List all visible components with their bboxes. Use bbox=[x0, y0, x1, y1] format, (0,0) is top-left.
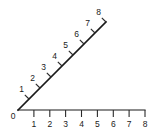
diagonal-tick-3 bbox=[47, 73, 51, 77]
origin-label: 0 bbox=[11, 111, 16, 121]
horizontal-label-6: 6 bbox=[111, 119, 116, 129]
horizontal-label-7: 7 bbox=[127, 119, 132, 129]
horizontal-label-1: 1 bbox=[32, 119, 37, 129]
diagonal-label-6: 6 bbox=[74, 29, 79, 39]
diagonal-tick-6 bbox=[80, 40, 84, 44]
diagonal-tick-1 bbox=[25, 95, 29, 99]
diagonal-tick-8 bbox=[102, 18, 106, 22]
diagonal-label-7: 7 bbox=[85, 18, 90, 28]
diagonal-tick-4 bbox=[58, 62, 62, 66]
diagonal-tick-5 bbox=[69, 51, 73, 55]
horizontal-label-3: 3 bbox=[63, 119, 68, 129]
horizontal-label-8: 8 bbox=[143, 119, 148, 129]
diagonal-label-2: 2 bbox=[30, 73, 35, 83]
horizontal-label-2: 2 bbox=[47, 119, 52, 129]
diagonal-label-4: 4 bbox=[52, 51, 57, 61]
diagonal-label-8: 8 bbox=[96, 7, 101, 17]
diagram-canvas: 1 2 3 4 5 6 7 8 1 2 3 4 5 6 7 8 0 bbox=[0, 0, 152, 130]
diagonal-label-3: 3 bbox=[41, 62, 46, 72]
number-line-diagram: 1 2 3 4 5 6 7 8 1 2 3 4 5 6 7 8 0 bbox=[0, 0, 152, 130]
diagonal-tick-2 bbox=[36, 84, 40, 88]
diagonal-label-5: 5 bbox=[63, 40, 68, 50]
diagonal-label-1: 1 bbox=[19, 84, 24, 94]
diagonal-tick-7 bbox=[91, 29, 95, 33]
horizontal-label-4: 4 bbox=[79, 119, 84, 129]
horizontal-label-5: 5 bbox=[95, 119, 100, 129]
